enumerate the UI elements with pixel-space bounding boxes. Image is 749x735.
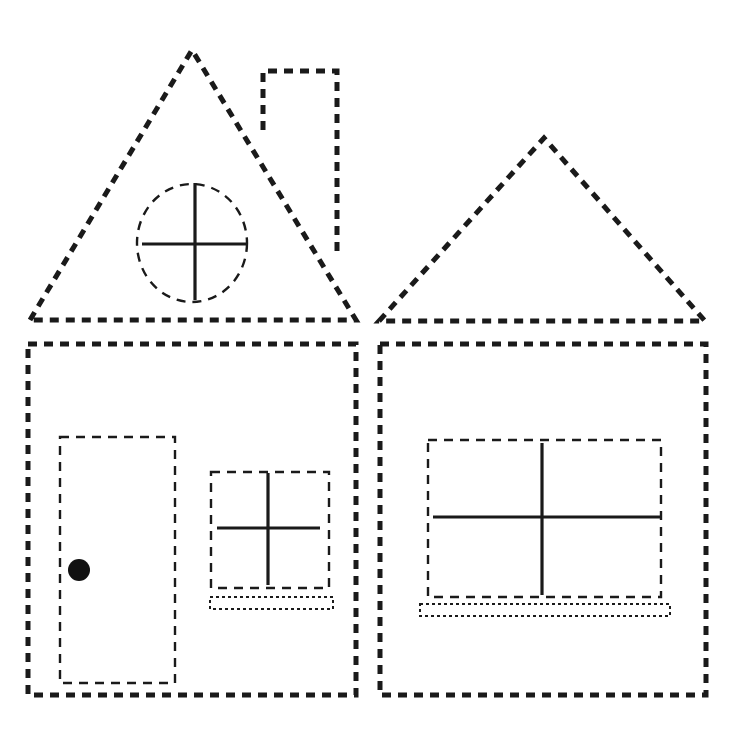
right-house: [379, 138, 706, 695]
door-knob-icon: [68, 559, 90, 581]
right-roof-triangle: [379, 138, 705, 321]
large-window-sill: [420, 604, 670, 616]
left-house: [28, 50, 356, 695]
small-window-sill: [210, 597, 333, 609]
small-window-outline: [211, 472, 329, 588]
left-wall-box: [28, 344, 356, 695]
house-tracing-worksheet: [0, 0, 749, 735]
left-roof-triangle: [30, 50, 356, 320]
